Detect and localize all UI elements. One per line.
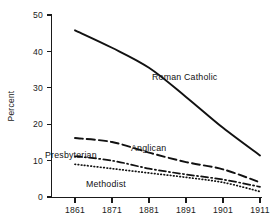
- x-tick-label-1881: 1881: [139, 205, 159, 215]
- y-tick-label-50: 50: [33, 10, 43, 20]
- y-tick-label-10: 10: [33, 156, 43, 166]
- chart-container: 50 40 30 20 10 0 Percent 1861 1871 1881 …: [0, 0, 270, 221]
- x-tick-label-1901: 1901: [213, 205, 233, 215]
- series-label-presbyterian: Presbyterian: [45, 150, 97, 160]
- line-chart: 50 40 30 20 10 0 Percent 1861 1871 1881 …: [0, 0, 270, 221]
- x-tick-label-1891: 1891: [176, 205, 196, 215]
- y-tick-label-30: 30: [33, 83, 43, 93]
- x-axis-ticks: [75, 198, 260, 203]
- x-tick-label-1861: 1861: [65, 205, 85, 215]
- x-tick-label-1911: 1911: [250, 205, 269, 215]
- series-layer: [75, 30, 260, 191]
- y-axis-title: Percent: [6, 90, 16, 121]
- series-path-roman-catholic: [75, 30, 260, 155]
- series-label-methodist: Methodist: [86, 179, 126, 189]
- y-axis-ticks: [47, 15, 52, 197]
- series-label-anglican: Anglican: [131, 143, 166, 153]
- y-tick-label-40: 40: [33, 47, 43, 57]
- y-tick-label-20: 20: [33, 119, 43, 129]
- x-tick-label-1871: 1871: [102, 205, 122, 215]
- series-label-roman-catholic: Roman Catholic: [152, 72, 218, 82]
- y-tick-label-0: 0: [38, 192, 43, 202]
